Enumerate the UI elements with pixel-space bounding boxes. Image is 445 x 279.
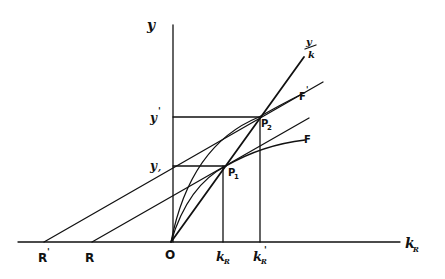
- svg-text:y: y: [149, 159, 158, 173]
- P1-label: P 1: [228, 167, 239, 181]
- svg-text:': ': [158, 106, 161, 116]
- x-axis-label: k R: [405, 235, 419, 254]
- svg-text:R: R: [223, 257, 230, 266]
- svg-text:y: y: [149, 111, 158, 125]
- production-function-diagram: y k R y ' y , R ' R O k R k R ' P 1 P 2 …: [0, 0, 445, 279]
- svg-text:': ': [47, 247, 50, 257]
- P2-label: P 2: [261, 118, 272, 132]
- curve-F: [171, 140, 305, 242]
- svg-text:R: R: [260, 257, 267, 266]
- svg-text:F: F: [299, 91, 306, 102]
- svg-text:R: R: [412, 245, 419, 254]
- y-label: y ,: [149, 159, 161, 173]
- ray-y-over-k: [171, 57, 304, 242]
- y-axis-label: y: [146, 17, 156, 33]
- kR-label: k R: [216, 249, 230, 266]
- tangent-line-R-prime-P2: [44, 82, 323, 242]
- kR-prime-label: k R ': [253, 245, 267, 266]
- R-label: R: [85, 251, 94, 265]
- svg-text:R: R: [38, 251, 47, 265]
- y-prime-label: y ': [149, 106, 161, 125]
- F-prime-label: F ': [299, 86, 308, 102]
- svg-text:': ': [264, 245, 267, 255]
- R-prime-label: R ': [38, 247, 50, 265]
- svg-text:1: 1: [234, 173, 239, 181]
- tangent-line-R-P1: [92, 118, 309, 242]
- svg-text:k: k: [308, 49, 315, 60]
- ray-y-over-k-label: y k: [305, 36, 316, 60]
- svg-text:y: y: [305, 36, 313, 47]
- svg-text:': ': [306, 86, 308, 95]
- F-label: F: [304, 134, 311, 145]
- svg-text:2: 2: [267, 124, 272, 132]
- origin-label: O: [165, 248, 175, 262]
- svg-text:,: ,: [157, 162, 161, 173]
